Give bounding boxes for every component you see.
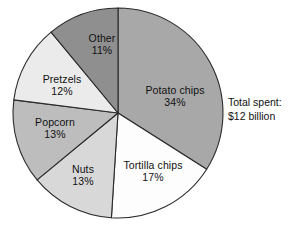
pie-label-name: Other — [89, 33, 116, 45]
pie-label-name: Pretzels — [43, 74, 82, 86]
total-spent-line-1: Total spent: — [228, 96, 282, 110]
pie-label-popcorn: Popcorn13% — [35, 117, 75, 141]
pie-label-percent: 34% — [146, 97, 205, 109]
pie-label-percent: 12% — [43, 86, 82, 98]
pie-chart-figure: Potato chips34%Tortilla chips17%Nuts13%P… — [0, 0, 299, 226]
pie-label-name: Potato chips — [146, 85, 205, 97]
pie-label-percent: 13% — [72, 176, 94, 188]
pie-label-pretzels: Pretzels12% — [43, 74, 82, 98]
total-spent-line-2: $12 billion — [228, 110, 282, 124]
pie-slices-group — [13, 8, 223, 218]
pie-label-potato-chips: Potato chips34% — [146, 85, 205, 109]
pie-label-name: Nuts — [72, 164, 94, 176]
pie-label-percent: 11% — [89, 45, 116, 57]
pie-label-name: Popcorn — [35, 117, 75, 129]
pie-label-name: Tortilla chips — [123, 160, 182, 172]
pie-label-percent: 13% — [35, 129, 75, 141]
pie-label-nuts: Nuts13% — [72, 164, 94, 188]
pie-label-tortilla-chips: Tortilla chips17% — [123, 160, 182, 184]
pie-label-other: Other11% — [89, 33, 116, 57]
total-spent-annotation: Total spent: $12 billion — [228, 96, 282, 123]
pie-label-percent: 17% — [123, 172, 182, 184]
